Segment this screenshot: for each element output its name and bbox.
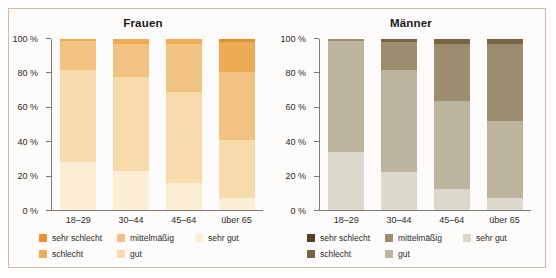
y-tick-frauen-80: 80 % bbox=[46, 72, 51, 73]
x-axis-line-frauen bbox=[51, 210, 263, 211]
legend-swatch-icon-frauen-gut bbox=[117, 250, 125, 258]
legend-item-maenner-sehr_gut[interactable]: sehr gut bbox=[463, 231, 537, 245]
bar-segment-frauen-1-gut[interactable] bbox=[113, 77, 149, 171]
y-tick-frauen-100: 100 % bbox=[46, 38, 51, 39]
bar-segment-maenner-1-sehr-gut[interactable] bbox=[381, 172, 417, 210]
bar-segment-frauen-3-mittelmäßig[interactable] bbox=[219, 72, 255, 140]
y-tick-frauen-60: 60 % bbox=[46, 107, 51, 108]
bar-segment-frauen-2-mittelmäßig[interactable] bbox=[166, 44, 202, 92]
x-tick-label-maenner-1: 30–44 bbox=[387, 215, 412, 225]
legend-item-frauen-mittelmaessig[interactable]: mittelmäßig bbox=[117, 231, 191, 245]
legend-item-maenner-mittelmaessig[interactable]: mittelmäßig bbox=[385, 231, 459, 245]
bar-segment-maenner-2-gut[interactable] bbox=[434, 101, 470, 190]
legend-swatch-icon-maenner-sehr_gut bbox=[463, 234, 471, 242]
bar-segment-frauen-0-sehr-gut[interactable] bbox=[60, 162, 96, 210]
panels-container: Frauen 0 %20 %40 %60 %80 %100 % 18–2930–… bbox=[9, 9, 545, 267]
y-tick-label-maenner-0: 0 % bbox=[290, 206, 306, 216]
legend-item-maenner-gut[interactable]: gut bbox=[385, 247, 459, 261]
bar-group-frauen: 18–2930–4445–64über 65 bbox=[52, 39, 263, 210]
legend-swatch-icon-frauen-sehr_schlecht bbox=[39, 234, 47, 242]
bar-segment-maenner-3-mittelmäßig[interactable] bbox=[487, 44, 523, 121]
bar-maenner-1[interactable]: 30–44 bbox=[381, 39, 417, 210]
x-tick-label-frauen-3: über 65 bbox=[221, 215, 252, 225]
legend-label-frauen-sehr_gut: sehr gut bbox=[208, 233, 239, 243]
x-tick-label-maenner-3: über 65 bbox=[489, 215, 520, 225]
legend-swatch-icon-maenner-gut bbox=[385, 250, 393, 258]
bar-segment-maenner-1-mittelmäßig[interactable] bbox=[381, 42, 417, 69]
panel-maenner: Männer 0 %20 %40 %60 %80 %100 % 18–2930–… bbox=[277, 9, 545, 267]
x-tick-label-frauen-2: 45–64 bbox=[171, 215, 196, 225]
legend-swatch-icon-frauen-mittelmaessig bbox=[117, 234, 125, 242]
bar-segment-frauen-0-gut[interactable] bbox=[60, 70, 96, 162]
legend-item-maenner-schlecht[interactable]: schlecht bbox=[307, 247, 381, 261]
legend-label-maenner-mittelmaessig: mittelmäßig bbox=[398, 233, 442, 243]
legend-label-maenner-sehr_schlecht: sehr schlecht bbox=[320, 233, 370, 243]
bar-segment-maenner-1-gut[interactable] bbox=[381, 70, 417, 173]
legend-item-frauen-gut[interactable]: gut bbox=[117, 247, 191, 261]
y-tick-label-frauen-40: 40 % bbox=[17, 137, 38, 147]
x-tick-label-frauen-1: 30–44 bbox=[119, 215, 144, 225]
y-tick-label-maenner-20: 20 % bbox=[285, 171, 306, 181]
legend-label-maenner-gut: gut bbox=[398, 249, 410, 259]
y-tick-label-maenner-80: 80 % bbox=[285, 68, 306, 78]
legend-maenner: sehr schlechtmittelmäßigsehr gutschlecht… bbox=[307, 231, 537, 261]
y-tick-label-frauen-100: 100 % bbox=[12, 34, 38, 44]
y-tick-frauen-20: 20 % bbox=[46, 176, 51, 177]
panel-title-maenner: Männer bbox=[277, 17, 545, 29]
chart-figure: Frauen 0 %20 %40 %60 %80 %100 % 18–2930–… bbox=[8, 8, 546, 268]
bar-group-maenner: 18–2930–4445–64über 65 bbox=[320, 39, 531, 210]
bar-segment-maenner-0-gut[interactable] bbox=[328, 41, 364, 152]
y-tick-maenner-40: 40 % bbox=[314, 141, 319, 142]
legend-swatch-icon-frauen-sehr_gut bbox=[195, 234, 203, 242]
x-axis-line-maenner bbox=[319, 210, 531, 211]
bar-frauen-3[interactable]: über 65 bbox=[219, 39, 255, 210]
bar-maenner-3[interactable]: über 65 bbox=[487, 39, 523, 210]
legend-swatch-icon-frauen-schlecht bbox=[39, 250, 47, 258]
y-tick-label-maenner-40: 40 % bbox=[285, 137, 306, 147]
bar-segment-frauen-0-mittelmäßig[interactable] bbox=[60, 41, 96, 70]
bar-frauen-2[interactable]: 45–64 bbox=[166, 39, 202, 210]
legend-item-frauen-sehr_gut[interactable]: sehr gut bbox=[195, 231, 269, 245]
bar-segment-frauen-2-sehr-gut[interactable] bbox=[166, 183, 202, 210]
x-tick-label-maenner-0: 18–29 bbox=[334, 215, 359, 225]
bar-maenner-0[interactable]: 18–29 bbox=[328, 39, 364, 210]
panel-title-frauen: Frauen bbox=[9, 17, 277, 29]
legend-item-frauen-schlecht[interactable]: schlecht bbox=[39, 247, 113, 261]
bar-segment-maenner-2-sehr-gut[interactable] bbox=[434, 189, 470, 210]
y-tick-maenner-80: 80 % bbox=[314, 72, 319, 73]
bar-frauen-0[interactable]: 18–29 bbox=[60, 39, 96, 210]
legend-label-maenner-sehr_gut: sehr gut bbox=[476, 233, 507, 243]
bar-segment-frauen-3-gut[interactable] bbox=[219, 140, 255, 198]
y-tick-maenner-0: 0 % bbox=[314, 210, 319, 211]
bar-segment-maenner-2-mittelmäßig[interactable] bbox=[434, 44, 470, 100]
y-tick-label-frauen-0: 0 % bbox=[22, 206, 38, 216]
bar-maenner-2[interactable]: 45–64 bbox=[434, 39, 470, 210]
y-tick-maenner-100: 100 % bbox=[314, 38, 319, 39]
y-tick-maenner-60: 60 % bbox=[314, 107, 319, 108]
y-tick-label-frauen-80: 80 % bbox=[17, 68, 38, 78]
legend-label-frauen-mittelmaessig: mittelmäßig bbox=[130, 233, 174, 243]
y-tick-maenner-20: 20 % bbox=[314, 176, 319, 177]
y-tick-frauen-0: 0 % bbox=[46, 210, 51, 211]
bar-segment-maenner-3-gut[interactable] bbox=[487, 121, 523, 198]
plot-area-maenner: 0 %20 %40 %60 %80 %100 % 18–2930–4445–64… bbox=[319, 39, 531, 211]
y-tick-label-maenner-100: 100 % bbox=[280, 34, 306, 44]
bar-segment-maenner-3-sehr-gut[interactable] bbox=[487, 198, 523, 210]
bar-segment-frauen-3-schlecht[interactable] bbox=[219, 42, 255, 71]
legend-label-maenner-schlecht: schlecht bbox=[320, 249, 351, 259]
bar-frauen-1[interactable]: 30–44 bbox=[113, 39, 149, 210]
legend-item-frauen-sehr_schlecht[interactable]: sehr schlecht bbox=[39, 231, 113, 245]
bar-segment-frauen-3-sehr-gut[interactable] bbox=[219, 198, 255, 210]
legend-frauen: sehr schlechtmittelmäßigsehr gutschlecht… bbox=[39, 231, 269, 261]
legend-swatch-icon-maenner-schlecht bbox=[307, 250, 315, 258]
bar-segment-frauen-1-mittelmäßig[interactable] bbox=[113, 44, 149, 76]
bar-segment-maenner-0-sehr-gut[interactable] bbox=[328, 152, 364, 210]
legend-swatch-icon-maenner-mittelmaessig bbox=[385, 234, 393, 242]
bar-segment-frauen-1-sehr-gut[interactable] bbox=[113, 171, 149, 210]
y-tick-frauen-40: 40 % bbox=[46, 141, 51, 142]
y-tick-label-frauen-20: 20 % bbox=[17, 171, 38, 181]
y-tick-label-maenner-60: 60 % bbox=[285, 102, 306, 112]
legend-item-maenner-sehr_schlecht[interactable]: sehr schlecht bbox=[307, 231, 381, 245]
plot-area-frauen: 0 %20 %40 %60 %80 %100 % 18–2930–4445–64… bbox=[51, 39, 263, 211]
bar-segment-frauen-2-gut[interactable] bbox=[166, 92, 202, 183]
